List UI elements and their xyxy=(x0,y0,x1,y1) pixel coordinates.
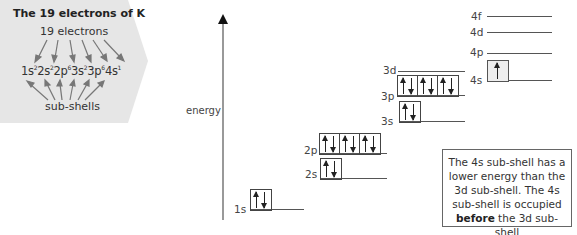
orbital-boxes-3p xyxy=(397,75,459,97)
level-label-3s: 3s xyxy=(381,115,393,127)
orbital-box xyxy=(340,134,360,154)
spin-up-arrow-icon xyxy=(497,63,498,79)
orbital-boxes-1s xyxy=(250,189,272,211)
level-label-3d: 3d xyxy=(383,64,396,76)
level-line-4f xyxy=(487,16,552,17)
level-label-4s: 4s xyxy=(470,74,482,86)
orbital-boxes-2p xyxy=(319,133,381,155)
spin-down-arrow-icon xyxy=(431,78,432,94)
spin-up-arrow-icon xyxy=(325,136,326,152)
spin-up-arrow-icon xyxy=(405,104,406,120)
spin-down-arrow-icon xyxy=(373,136,374,152)
level-label-4d: 4d xyxy=(470,26,483,38)
spin-down-arrow-icon xyxy=(333,136,334,152)
orbital-box xyxy=(488,61,508,81)
panel-title: The 19 electrons of K xyxy=(13,7,145,20)
config-3s: 3s2 xyxy=(71,64,87,78)
config-3p: 3p6 xyxy=(87,64,105,78)
explanation-note: The 4s sub-shell has a lower energy than… xyxy=(442,149,572,227)
spin-up-arrow-icon xyxy=(345,136,346,152)
level-label-3p: 3p xyxy=(381,90,394,102)
subshells-label: sub-shells xyxy=(45,100,100,113)
spin-down-arrow-icon xyxy=(353,136,354,152)
config-2p: 2p6 xyxy=(54,64,72,78)
orbital-boxes-2s xyxy=(320,158,342,180)
spin-down-arrow-icon xyxy=(264,192,265,208)
orbital-box xyxy=(398,76,418,96)
spin-up-arrow-icon xyxy=(326,161,327,177)
spin-down-arrow-icon xyxy=(411,78,412,94)
orbital-box xyxy=(320,134,340,154)
level-line-4d xyxy=(487,32,552,33)
level-line-4p xyxy=(487,53,552,54)
level-label-2s: 2s xyxy=(305,168,317,180)
energy-axis xyxy=(215,12,231,222)
orbital-box xyxy=(251,190,271,210)
config-1s: 1s2 xyxy=(21,64,37,78)
orbital-box xyxy=(438,76,458,96)
orbital-boxes-4s xyxy=(487,60,509,82)
level-label-4f: 4f xyxy=(471,10,481,22)
config-4s: 4s1 xyxy=(105,64,121,78)
spin-up-arrow-icon xyxy=(443,78,444,94)
level-line-3d xyxy=(398,71,465,72)
config-2s: 2s2 xyxy=(37,64,53,78)
electron-configuration: 1s22s22p63s23p64s1 xyxy=(21,64,121,78)
spin-down-arrow-icon xyxy=(413,104,414,120)
electron-config-panel: The 19 electrons of K 19 electrons 1s22s… xyxy=(0,0,148,123)
emphasis-before: before xyxy=(456,212,495,224)
orbital-box xyxy=(360,134,380,154)
orbital-box xyxy=(418,76,438,96)
electrons-label: 19 electrons xyxy=(40,25,108,38)
spin-down-arrow-icon xyxy=(451,78,452,94)
spin-down-arrow-icon xyxy=(334,161,335,177)
spin-up-arrow-icon xyxy=(423,78,424,94)
spin-up-arrow-icon xyxy=(256,192,257,208)
level-label-1s: 1s xyxy=(234,203,246,215)
level-label-2p: 2p xyxy=(304,144,317,156)
orbital-box xyxy=(400,102,420,122)
spin-up-arrow-icon xyxy=(365,136,366,152)
orbital-box xyxy=(321,159,341,179)
level-label-4p: 4p xyxy=(470,46,483,58)
orbital-boxes-3s xyxy=(399,101,421,123)
axis-arrowhead-icon xyxy=(218,14,228,24)
spin-up-arrow-icon xyxy=(403,78,404,94)
energy-axis-label: energy xyxy=(186,105,221,117)
